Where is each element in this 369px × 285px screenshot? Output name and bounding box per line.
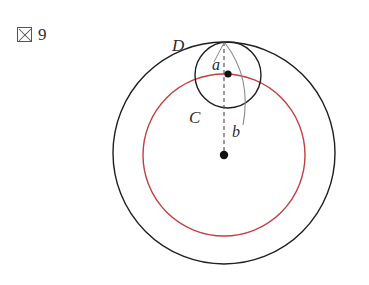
small-circle-center-dot bbox=[224, 70, 231, 77]
label-D: D bbox=[171, 36, 185, 55]
label-C: C bbox=[189, 108, 201, 127]
main-circle-center-dot bbox=[220, 151, 228, 159]
gray-arc-path bbox=[225, 43, 245, 125]
label-b: b bbox=[232, 123, 240, 140]
figure-container: 9 D a C b bbox=[0, 0, 369, 285]
geometry-diagram: D a C b bbox=[0, 0, 369, 285]
label-a: a bbox=[212, 56, 220, 73]
